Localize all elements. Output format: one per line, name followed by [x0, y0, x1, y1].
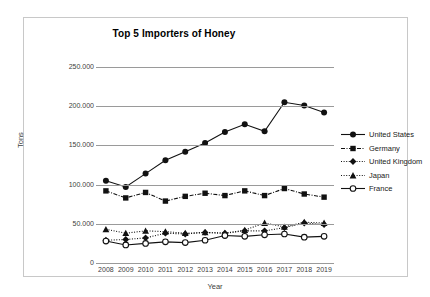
data-point: [103, 226, 110, 232]
data-point: [183, 194, 188, 199]
x-axis-label: Year: [96, 282, 334, 291]
data-point: [321, 234, 327, 240]
legend-item-united-kingdom[interactable]: United Kingdom: [340, 155, 430, 169]
y-tick-label: 50.000: [34, 220, 94, 227]
legend-marker-icon: [340, 129, 366, 140]
legend-label: United States: [366, 130, 414, 139]
data-point: [321, 109, 327, 115]
y-tick-label: 200.000: [34, 102, 94, 109]
chart-legend: United StatesGermanyUnited KingdomJapanF…: [340, 128, 430, 196]
data-point: [262, 193, 267, 198]
chart-frame: Top 5 Importers of Honey Tons 050.000100…: [23, 17, 408, 277]
legend-label: Japan: [366, 171, 389, 180]
data-point: [302, 191, 307, 196]
gridline: [96, 185, 334, 186]
data-point: [282, 231, 288, 237]
legend-marker-icon: [340, 170, 366, 181]
data-point: [262, 128, 268, 134]
data-point: [202, 237, 208, 243]
legend-marker-icon: [340, 183, 366, 194]
legend-marker: [350, 146, 355, 151]
series-japan: [103, 219, 328, 236]
legend-marker: [350, 172, 357, 178]
x-axis-ticks: 2008200920102011201220132014201520162017…: [96, 266, 334, 278]
y-tick-label: 250.000: [34, 63, 94, 70]
series-line: [106, 189, 324, 202]
data-point: [261, 220, 268, 226]
legend-label: Germany: [366, 144, 400, 153]
y-tick-label: 0: [34, 259, 94, 266]
legend-item-japan[interactable]: Japan: [340, 169, 430, 183]
legend-marker: [350, 132, 356, 138]
legend-marker-icon: [340, 143, 366, 154]
data-point: [281, 99, 287, 105]
gridline: [96, 67, 334, 68]
data-point: [242, 188, 247, 193]
legend-marker-icon: [340, 156, 366, 167]
x-axis-line: [96, 263, 334, 264]
data-point: [301, 234, 307, 240]
data-point: [143, 171, 149, 177]
series-france: [103, 231, 327, 248]
data-point: [182, 149, 188, 155]
data-point: [103, 188, 108, 193]
legend-item-germany[interactable]: Germany: [340, 142, 430, 156]
data-point: [321, 194, 326, 199]
data-point: [222, 233, 228, 239]
data-point: [143, 190, 148, 195]
y-axis-label: Tons: [16, 132, 25, 148]
data-point: [143, 241, 149, 247]
series-line: [106, 234, 324, 245]
data-point: [202, 191, 207, 196]
data-point: [282, 186, 287, 191]
data-point: [242, 234, 248, 240]
legend-item-united-states[interactable]: United States: [340, 128, 430, 142]
x-tick-label: 2019: [311, 266, 337, 273]
chart-title: Top 5 Importers of Honey: [24, 28, 324, 39]
data-point: [222, 193, 227, 198]
data-point: [242, 121, 248, 127]
plot-area: [96, 67, 334, 263]
gridline: [96, 224, 334, 225]
series-germany: [103, 186, 327, 204]
data-point: [182, 230, 189, 236]
data-point: [163, 198, 168, 203]
y-tick-label: 150.000: [34, 141, 94, 148]
data-point: [262, 232, 268, 238]
legend-label: France: [366, 184, 392, 193]
data-point: [103, 238, 109, 244]
y-tick-label: 100.000: [34, 181, 94, 188]
legend-item-france[interactable]: France: [340, 182, 430, 196]
gridline: [96, 106, 334, 107]
legend-label: United Kingdom: [366, 157, 422, 166]
gridline: [96, 145, 334, 146]
series-lines: [96, 67, 334, 263]
data-point: [222, 129, 228, 135]
data-point: [163, 239, 169, 245]
data-point: [123, 242, 129, 248]
legend-marker: [350, 186, 356, 192]
data-point: [241, 227, 248, 233]
data-point: [103, 178, 109, 184]
data-point: [122, 230, 129, 236]
data-point: [123, 195, 128, 200]
data-point: [182, 240, 188, 246]
legend-marker: [350, 158, 357, 165]
data-point: [162, 157, 168, 163]
